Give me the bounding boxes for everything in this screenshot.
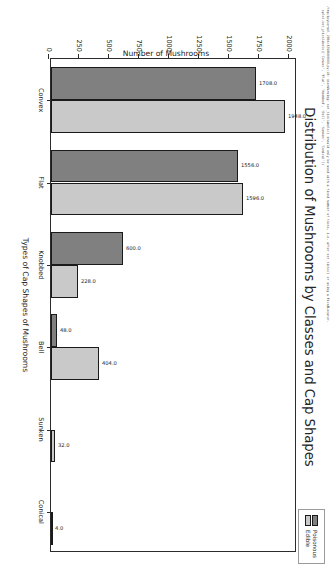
y-axis-tick-label: 250 [75,39,83,52]
y-axis-tick [258,54,259,59]
x-axis-tick [47,347,51,348]
bar-value-label: 1948.0 [288,113,306,119]
y-axis-tick [288,54,289,59]
y-axis-tick [108,54,109,59]
x-axis-tick-label-convex: Convex [37,88,45,113]
bar-convex-poisonous [51,67,256,100]
python-userwarning-text: /tmp/ipykernel_2866/4258604443.py:18: Us… [321,6,330,566]
x-axis-tick-label-sunken: Sunken [37,417,45,441]
y-axis-tick-label: 0 [45,48,53,52]
y-axis-tick [48,54,49,59]
bar-value-label: 48.0 [60,327,72,333]
chart-legend[interactable]: Poisonous Edible [299,509,326,564]
bar-value-label: 1708.0 [259,80,277,86]
bar-value-label: 600.0 [126,245,141,251]
y-axis-tick-label: 1500 [225,35,233,52]
y-axis-label: Number of Mushrooms [123,49,209,58]
plot-axes: 1708.01948.01556.01596.0600.0228.048.040… [50,58,296,552]
y-axis-tick-label: 500 [105,39,113,52]
matplotlib-figure: /tmp/ipykernel_2866/4258604443.py:18: Us… [0,0,333,574]
y-axis-tick [228,54,229,59]
figure-rotation-wrapper: /tmp/ipykernel_2866/4258604443.py:18: Us… [0,0,333,574]
bar-knobbed-edible [51,265,78,298]
x-axis-tick [47,512,51,513]
bar-value-label: 1596.0 [246,195,264,201]
bar-value-label: 404.0 [102,360,117,366]
legend-item-poisonous: Poisonous [313,515,319,558]
bar-flat-poisonous [51,150,238,183]
y-axis-tick-label: 1750 [255,35,263,52]
y-axis-tick [78,54,79,59]
bar-value-label: 228.0 [81,278,96,284]
x-axis-tick [47,100,51,101]
chart-title: Distribution of Mushrooms by Classes and… [302,0,317,574]
bar-convex-edible [51,100,285,133]
legend-item-edible: Edible [305,515,311,558]
legend-swatch-edible-icon [305,515,311,526]
x-axis-tick [47,183,51,184]
bar-knobbed-poisonous [51,232,123,265]
x-axis-tick-label-bell: Bell [37,341,45,353]
legend-label-poisonous: Poisonous [313,530,319,558]
bar-value-label: 4.0 [55,525,63,531]
legend-swatch-poisonous-icon [313,515,319,526]
x-axis-label: Types of Cap Shapes of Mushrooms [21,58,30,552]
bar-sunken-edible [51,430,55,463]
bar-bell-edible [51,347,99,380]
x-axis-tick [47,265,51,266]
bar-conical-edible [51,512,53,545]
x-axis-tick-label-conical: Conical [37,500,45,524]
bar-value-label: 32.0 [58,442,70,448]
plot-area: 1708.01948.01556.01596.0600.0228.048.040… [51,59,295,551]
bar-value-label: 1556.0 [241,162,259,168]
bar-bell-poisonous [51,314,57,347]
bar-flat-edible [51,183,243,216]
y-axis-tick-label: 2000 [285,35,293,52]
legend-label-edible: Edible [305,530,311,547]
x-axis-tick [47,430,51,431]
x-axis-tick-label-knobbed: Knobbed [37,250,45,279]
x-axis-tick-label-flat: Flat [37,176,45,188]
